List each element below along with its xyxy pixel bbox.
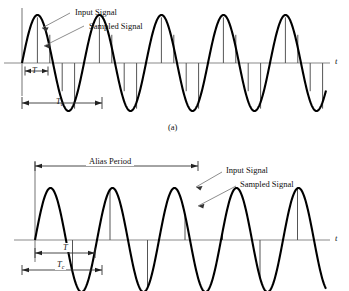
panel-a-sampled-signal-label: Sampled Signal	[89, 22, 143, 31]
figure-caption-a: (a)	[168, 122, 177, 132]
panel-a-plot	[0, 0, 349, 140]
panel-b-sampled-signal-label: Sampled Signal	[240, 180, 294, 189]
panel-b-sample-lines	[73, 188, 298, 288]
panel-a-Tc-label: Tc	[56, 97, 63, 107]
panel-a-Tc-subscript: c	[61, 101, 64, 107]
panel-a-adequate-sampling: Input Signal Sampled Signal T Tc t (a)	[0, 0, 349, 140]
panel-b-Tc-label: Tc	[55, 260, 66, 270]
panel-b-aliased-sampling: Alias Period Input Signal Sampled Signal…	[0, 140, 349, 291]
panel-b-input-signal-label: Input Signal	[226, 166, 268, 175]
panel-a-axis-label: t	[335, 57, 337, 66]
panel-a-T-label: T	[32, 66, 37, 75]
panel-b-Tc-subscript: c	[62, 264, 65, 270]
panel-b-alias-period-label: Alias Period	[86, 157, 134, 166]
panel-a-input-signal-label: Input Signal	[75, 8, 117, 17]
panel-b-T-label: T	[61, 243, 70, 252]
panel-b-leader-lines	[196, 172, 236, 209]
panel-b-axis-label: t	[335, 234, 337, 243]
panel-b-plot	[0, 140, 349, 291]
